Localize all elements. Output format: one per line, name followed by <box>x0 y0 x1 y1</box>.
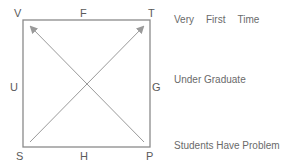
legend-word-very: Very <box>174 14 194 25</box>
legend-word-first: First <box>206 14 225 25</box>
corner-label-top-right: T <box>148 7 155 19</box>
arrow-s-to-t <box>30 27 143 142</box>
corner-label-bottom-left: S <box>16 150 23 162</box>
midpoint-label-top: F <box>80 7 87 19</box>
legend-line-1: VeryFirstTime <box>174 14 259 26</box>
midpoint-label-left: U <box>10 81 18 93</box>
corner-label-top-left: V <box>14 7 21 19</box>
legend-line-3: Students Have Problem <box>174 140 280 152</box>
legend-line-2: Under Graduate <box>174 74 246 86</box>
legend-word-time: Time <box>237 14 259 25</box>
arrow-p-to-v <box>31 27 144 142</box>
midpoint-label-bottom: H <box>80 150 88 162</box>
corner-label-bottom-right: P <box>146 150 153 162</box>
midpoint-label-right: G <box>152 81 161 93</box>
